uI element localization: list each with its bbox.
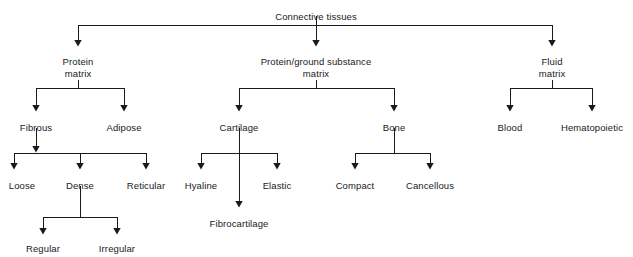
node-label-hematopoietic: Hematopoietic xyxy=(561,122,623,134)
node-label-fluid-matrix: Fluid matrix xyxy=(539,56,565,79)
node-label-cartilage: Cartilage xyxy=(220,122,259,134)
node-label-dense: Dense xyxy=(66,180,94,192)
node-label-hyaline: Hyaline xyxy=(185,180,217,192)
node-label-bone: Bone xyxy=(383,122,406,134)
node-label-elastic: Elastic xyxy=(263,180,292,192)
node-label-adipose: Adipose xyxy=(106,122,141,134)
node-label-compact: Compact xyxy=(336,180,375,192)
node-label-root: Connective tissues xyxy=(275,11,357,23)
node-label-regular: Regular xyxy=(26,243,60,255)
node-label-protein-matrix: Protein matrix xyxy=(63,56,94,79)
node-label-cancellous: Cancellous xyxy=(406,180,454,192)
node-label-blood: Blood xyxy=(498,122,523,134)
node-label-reticular: Reticular xyxy=(127,180,165,192)
node-label-fibrocartilage: Fibrocartilage xyxy=(210,218,269,230)
node-label-fibrous: Fibrous xyxy=(20,122,52,134)
node-label-ground-substance-matrix: Protein/ground substance matrix xyxy=(261,56,372,79)
connective-tissue-flowchart: Connective tissues Protein matrix Protei… xyxy=(0,0,633,257)
node-label-irregular: Irregular xyxy=(99,243,135,255)
node-label-layer: Connective tissues Protein matrix Protei… xyxy=(0,0,633,257)
node-label-loose: Loose xyxy=(9,180,35,192)
